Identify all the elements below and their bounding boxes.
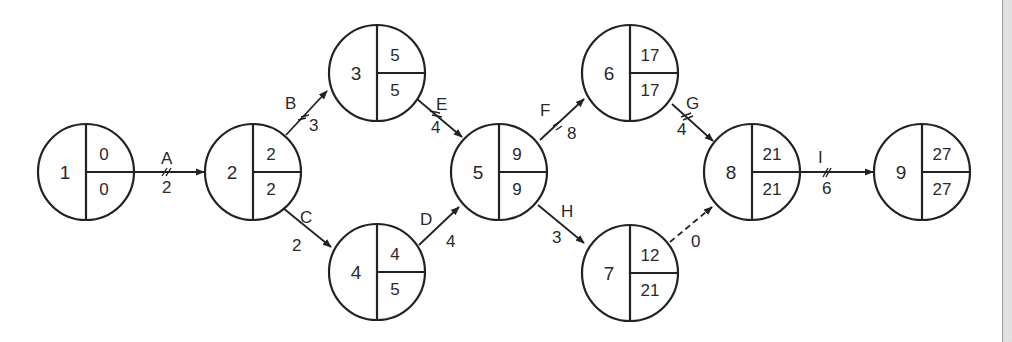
- event-node-1: 1 0 0: [38, 124, 134, 220]
- activity-duration: 6: [822, 179, 831, 198]
- activity-label: D: [420, 210, 432, 229]
- node-earliest-time: 17: [641, 46, 660, 65]
- activity-b-arrow: B 3: [285, 91, 327, 135]
- event-node-2: 2 2 2: [205, 124, 301, 220]
- activity-duration: 0: [691, 232, 700, 251]
- node-latest-time: 21: [763, 180, 782, 199]
- node-number: 7: [604, 263, 615, 284]
- node-latest-time: 2: [266, 180, 275, 199]
- event-node-5: 5 9 9: [451, 124, 547, 220]
- node-latest-time: 17: [641, 81, 660, 100]
- node-earliest-time: 4: [390, 245, 399, 264]
- node-earliest-time: 12: [641, 246, 660, 265]
- activity-h-arrow: H 3: [538, 202, 584, 247]
- event-node-3: 3 5 5: [329, 25, 425, 121]
- activity-duration: 4: [431, 118, 440, 137]
- event-node-4: 4 4 5: [329, 224, 425, 320]
- activity-label: B: [285, 94, 296, 113]
- activity-label: A: [161, 149, 173, 168]
- critical-tick-mark: [298, 118, 306, 120]
- activity-duration: 3: [309, 116, 318, 135]
- node-earliest-time: 9: [512, 145, 521, 164]
- node-number: 6: [604, 63, 615, 84]
- activity-label: I: [818, 148, 823, 167]
- activity-duration: 8: [567, 124, 576, 143]
- event-node-7: 7 12 21: [582, 225, 678, 321]
- activity-duration: 4: [677, 120, 686, 139]
- activity-label: F: [540, 101, 550, 120]
- activity-label: G: [686, 94, 699, 113]
- event-node-9: 9 27 27: [874, 124, 970, 220]
- critical-tick-mark: [301, 115, 309, 117]
- activity-duration: 2: [162, 178, 171, 197]
- activity-label: H: [561, 202, 573, 221]
- node-latest-time: 27: [933, 180, 952, 199]
- node-number: 8: [726, 162, 737, 183]
- activity-label: C: [300, 208, 312, 227]
- node-latest-time: 21: [641, 281, 660, 300]
- node-earliest-time: 5: [390, 46, 399, 65]
- page-edge-border: [1002, 0, 1012, 342]
- node-latest-time: 9: [512, 180, 521, 199]
- activity-i-arrow: I 6: [800, 148, 873, 198]
- activity-duration: 4: [446, 232, 455, 251]
- node-latest-time: 0: [99, 180, 108, 199]
- activity-c-arrow: C 2: [283, 208, 331, 255]
- node-number: 2: [227, 162, 238, 183]
- node-number: 5: [473, 162, 484, 183]
- node-earliest-time: 21: [763, 145, 782, 164]
- activity-e-arrow: E 4: [417, 95, 462, 137]
- activity-d-arrow: D 4: [419, 207, 459, 251]
- activity-a-arrow: A 2: [134, 149, 204, 197]
- node-earliest-time: 27: [933, 145, 952, 164]
- node-number: 3: [351, 63, 362, 84]
- node-number: 1: [60, 162, 71, 183]
- activity-g-arrow: G 4: [672, 94, 713, 141]
- activity-duration: 3: [552, 228, 561, 247]
- dummy-activity-arrow: 0: [670, 207, 712, 251]
- activity-duration: 2: [292, 236, 301, 255]
- node-latest-time: 5: [390, 81, 399, 100]
- node-earliest-time: 0: [99, 145, 108, 164]
- node-latest-time: 5: [390, 280, 399, 299]
- node-number: 9: [896, 162, 907, 183]
- node-earliest-time: 2: [266, 145, 275, 164]
- critical-tick-mark: [556, 126, 562, 130]
- event-node-8: 8 21 21: [704, 124, 800, 220]
- event-node-6: 6 17 17: [582, 25, 678, 121]
- activity-label: E: [436, 95, 447, 114]
- activity-f-arrow: F 8: [540, 99, 584, 143]
- node-number: 4: [351, 262, 362, 283]
- critical-tick-mark: [432, 115, 442, 117]
